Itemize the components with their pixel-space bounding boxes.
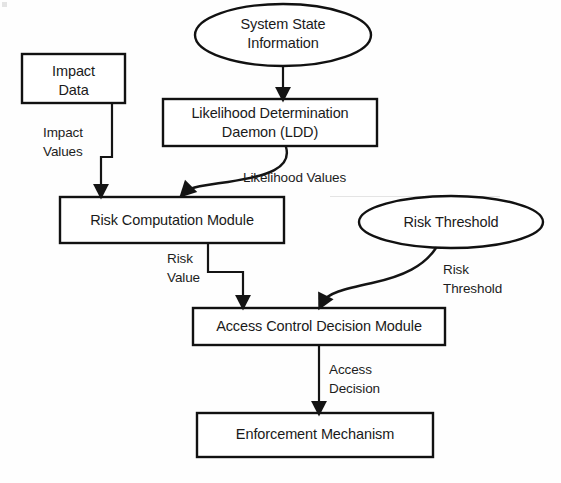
edge-label-risk-threshold-flow: Risk Threshold [443, 260, 521, 298]
edge-risk-computation-to-access-control [208, 244, 243, 303]
edge-label-access-decision: Access Decision [329, 360, 395, 398]
edge-risk-threshold-to-access-control [322, 248, 436, 303]
edge-label-impact-values: Impact Values [43, 123, 107, 161]
diagram-graphics [0, 0, 561, 483]
node-enforcement-mechanism [197, 413, 433, 457]
node-risk-threshold [359, 196, 543, 248]
node-system-state-information [195, 4, 371, 66]
node-risk-computation-module [60, 197, 284, 243]
node-likelihood-determination-daemon [163, 99, 377, 146]
node-access-control-decision-module [193, 308, 445, 345]
diagram-canvas: Impact Data System State Information Lik… [0, 0, 561, 483]
edge-label-likelihood-values: Likelihood Values [243, 168, 367, 187]
edge-label-risk-value: Risk Value [167, 249, 211, 287]
node-impact-data [22, 54, 125, 103]
